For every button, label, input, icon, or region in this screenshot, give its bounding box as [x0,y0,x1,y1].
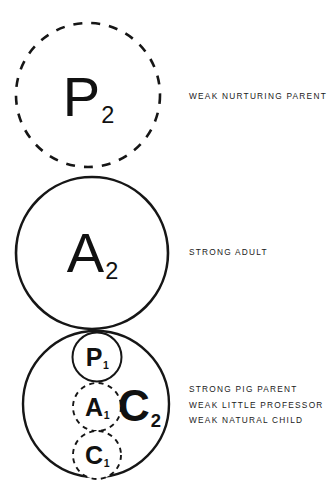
glyph-p1: P1 [86,345,109,370]
subscript-c1: 1 [104,457,110,469]
ego-state-diagram: P2 A2 C2 P1 A1 C1 WEAK NURTURING PARENT … [0,0,331,493]
annotation-child: STRONG PIG PARENTWEAK LITTLE PROFESSORWE… [189,382,324,429]
annotation-line: STRONG PIG PARENT [189,382,324,398]
glyph-p2: P2 [63,69,113,125]
subscript-a1: 1 [104,409,110,421]
glyph-a1: A1 [85,395,109,420]
annotation-line: WEAK LITTLE PROFESSOR [189,398,324,414]
subscript-p2: 2 [101,102,114,128]
glyph-c2: C2 [118,384,160,428]
annotation-line: STRONG ADULT [189,245,268,261]
subscript-c2: 2 [151,410,161,431]
annotation-line: WEAK NATURAL CHILD [189,413,324,429]
subscript-a2: 2 [105,258,118,284]
glyph-a2: A2 [67,225,117,281]
annotation-adult: STRONG ADULT [189,245,268,261]
annotation-line: WEAK NURTURING PARENT [189,89,327,105]
glyph-c1: C1 [85,443,109,468]
subscript-p1: 1 [103,359,109,371]
annotation-parent: WEAK NURTURING PARENT [189,89,327,105]
